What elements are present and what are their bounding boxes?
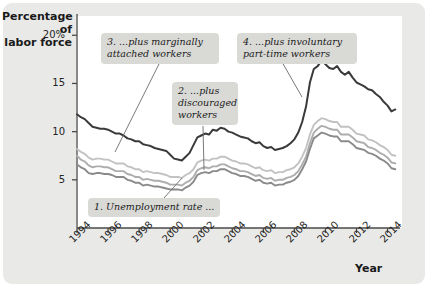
callout-involuntary-parttime-workers: 4. ...plus involuntary part-time workers — [237, 33, 357, 64]
series-layer — [77, 60, 395, 190]
y-tick-label-5: 5 — [25, 174, 65, 185]
y-tick-label-20: 20% — [25, 29, 65, 40]
x-axis-title: Year — [355, 262, 382, 275]
callout-unemployment-rate: 1. Unemployment rate ... — [88, 198, 220, 217]
leader-callout-2 — [203, 126, 204, 170]
callout-marginally-attached-workers: 3. ...plus marginally attached workers — [101, 33, 219, 64]
y-tick-label-10: 10 — [25, 126, 65, 137]
y-tick-label-15: 15 — [25, 77, 65, 88]
leader-callout-3 — [115, 62, 160, 152]
callout-discouraged-workers: 2. ...plus discouraged workers — [172, 82, 238, 125]
chart-figure: Percentage of labor force Year 20%15105 … — [0, 0, 428, 290]
leader-callout-4 — [282, 62, 302, 97]
